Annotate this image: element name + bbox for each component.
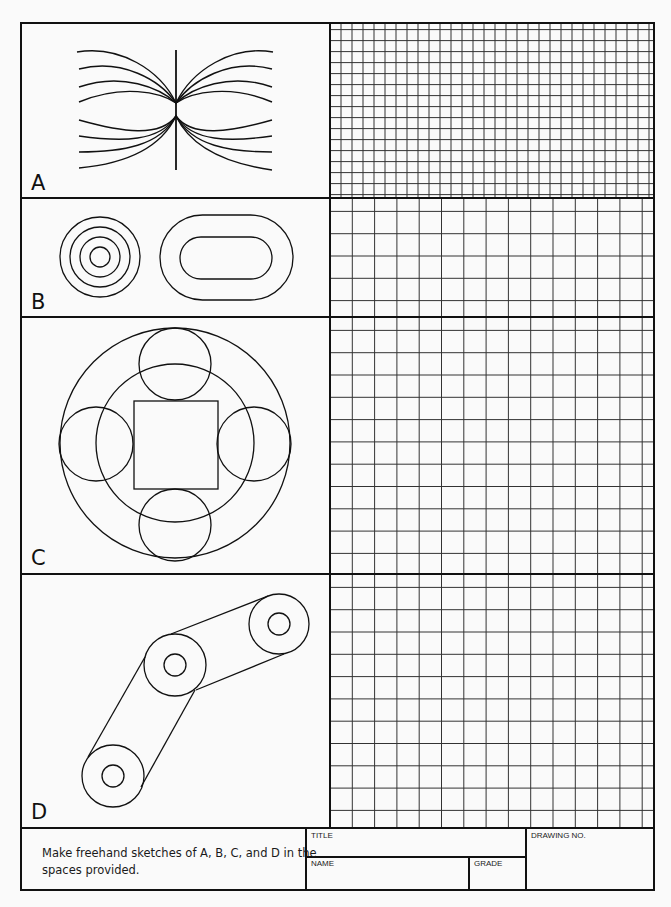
figure-b bbox=[60, 215, 293, 300]
sketch-grid-d[interactable] bbox=[330, 574, 654, 828]
concentric-circle bbox=[60, 217, 140, 297]
name-field-label: NAME bbox=[311, 859, 334, 868]
figure-c bbox=[59, 328, 291, 561]
sketch-grid-b[interactable] bbox=[330, 198, 654, 317]
outer-border bbox=[21, 23, 654, 890]
sketch-grid-c[interactable] bbox=[330, 317, 654, 574]
panel-label-a: A bbox=[31, 171, 46, 195]
belt-segment bbox=[171, 596, 268, 634]
sketch-grid-a[interactable] bbox=[330, 23, 654, 198]
grade-field-label: GRADE bbox=[474, 859, 502, 868]
instructions-line-2: spaces provided. bbox=[42, 863, 140, 877]
concentric-circle bbox=[90, 247, 110, 267]
pulley-outer bbox=[144, 634, 206, 696]
panel-label-d: D bbox=[31, 800, 47, 824]
pulley-hub bbox=[164, 654, 186, 676]
title-field-label: TITLE bbox=[311, 831, 333, 840]
frame bbox=[21, 23, 654, 890]
pulley-hub bbox=[268, 613, 290, 635]
field-line bbox=[77, 51, 273, 103]
belt-segment bbox=[88, 657, 145, 757]
instructions-line-1: Make freehand sketches of A, B, C, and D… bbox=[42, 846, 317, 860]
concentric-circle bbox=[70, 227, 130, 287]
stadium-inner bbox=[180, 237, 272, 279]
middle-circle bbox=[96, 364, 254, 522]
drawing-no-field-label: DRAWING NO. bbox=[531, 831, 586, 840]
pulley-hub bbox=[102, 765, 124, 787]
pulley-outer bbox=[82, 745, 144, 807]
panel-label-b: B bbox=[31, 290, 45, 314]
worksheet-sheet: A B C D Make freehand sketches of A, B, … bbox=[0, 0, 671, 907]
small-circle-bottom bbox=[139, 489, 211, 561]
grid-layer bbox=[330, 23, 654, 828]
belt-segment bbox=[141, 690, 195, 787]
panel-label-c: C bbox=[31, 546, 46, 570]
figure-a-field-lines bbox=[77, 50, 273, 170]
concentric-circle bbox=[80, 237, 120, 277]
center-square bbox=[134, 401, 218, 489]
belt-segment bbox=[196, 654, 284, 690]
figure-d-pulleys bbox=[82, 594, 309, 807]
outer-circle bbox=[60, 328, 290, 558]
pulley-outer bbox=[249, 594, 309, 654]
